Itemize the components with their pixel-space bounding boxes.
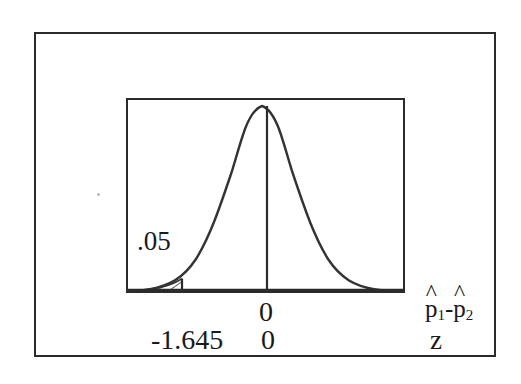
hat-accent-icon: ^ <box>425 281 438 305</box>
subscript-one: 1 <box>438 307 446 323</box>
z-axis-zero-label: 0 <box>261 326 275 354</box>
minus-sign: - <box>445 295 453 322</box>
p-hat-one: ^p <box>425 296 438 321</box>
critical-value-label: -1.645 <box>151 326 223 354</box>
proportion-difference-axis-label: ^p1-^p2 <box>425 296 473 321</box>
figure-root: .05 0 0 -1.645 ^p1-^p2 z <box>0 0 521 384</box>
scan-speck <box>97 193 100 196</box>
proportion-axis-zero-label: 0 <box>259 298 273 326</box>
z-axis-name-label: z <box>430 327 442 354</box>
hat-accent-icon-2: ^ <box>453 281 466 305</box>
normal-distribution-curve <box>127 106 398 292</box>
alpha-area-label: .05 <box>137 228 171 255</box>
normal-curve-plot <box>126 98 405 293</box>
p-hat-two: ^p <box>453 296 466 321</box>
subscript-two: 2 <box>466 307 474 323</box>
